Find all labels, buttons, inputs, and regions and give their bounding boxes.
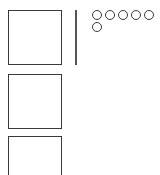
- square-box-1: [8, 10, 62, 65]
- circle-icon: [92, 10, 102, 20]
- square-box-3: [8, 136, 62, 175]
- diagram-canvas: [0, 0, 160, 175]
- circle-icon: [105, 10, 115, 20]
- square-box-2: [8, 74, 62, 129]
- circle-icon: [144, 10, 154, 20]
- vertical-divider-line: [75, 10, 77, 65]
- circle-icon: [92, 22, 102, 32]
- circle-icon: [131, 10, 141, 20]
- circle-icon: [118, 10, 128, 20]
